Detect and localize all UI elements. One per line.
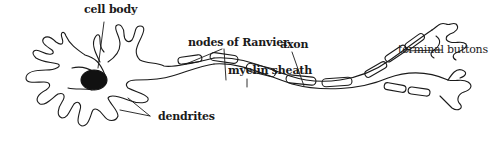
label-nodes-of-ranvier: nodes of Ranvier bbox=[188, 36, 289, 49]
neuron-diagram: cell body dendrites nodes of Ranvier mye… bbox=[0, 0, 489, 151]
label-dendrites: dendrites bbox=[158, 110, 215, 123]
label-cell-body: cell body bbox=[84, 3, 137, 16]
label-axon: axon bbox=[280, 38, 308, 51]
label-myelin-sheath: myelin sheath bbox=[228, 64, 312, 77]
nucleus bbox=[81, 70, 107, 90]
label-terminal-buttons: terminal buttons bbox=[398, 43, 488, 56]
terminal-branches bbox=[431, 23, 471, 109]
